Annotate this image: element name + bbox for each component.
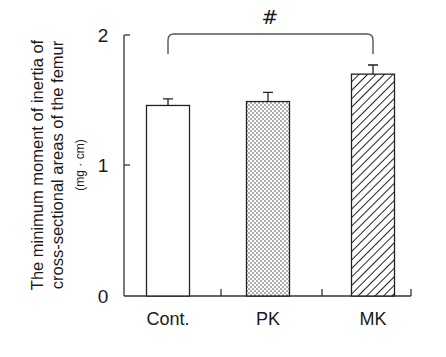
x-label-pk: PK bbox=[256, 309, 280, 329]
bar-mk bbox=[352, 74, 395, 296]
y-tick-label-2: 2 bbox=[98, 25, 109, 46]
y-tick-labels: 2 1 0 bbox=[98, 25, 109, 307]
error-bar-mk bbox=[368, 65, 378, 74]
x-label-mk: MK bbox=[360, 309, 387, 329]
error-bar-cont bbox=[163, 99, 173, 106]
x-tick-labels: Cont. PK MK bbox=[146, 309, 386, 329]
significance-bracket: # bbox=[168, 5, 373, 54]
x-label-cont: Cont. bbox=[146, 309, 189, 329]
bar-cont bbox=[147, 105, 190, 296]
y-axis-unit: (mg · cm) bbox=[73, 139, 87, 190]
y-axis-label-line-1: The minimum moment of inertia of bbox=[28, 39, 46, 290]
bar-pk bbox=[247, 102, 290, 296]
significance-marker: # bbox=[262, 5, 279, 29]
bars bbox=[147, 65, 395, 296]
y-axis bbox=[124, 35, 130, 296]
y-axis-label-line-2: cross-sectional areas of the femur bbox=[48, 40, 66, 289]
y-tick-label-0: 0 bbox=[98, 286, 109, 307]
y-axis-label: The minimum moment of inertia of cross-s… bbox=[28, 39, 87, 290]
bar-chart: The minimum moment of inertia of cross-s… bbox=[0, 0, 446, 357]
y-tick-label-1: 1 bbox=[98, 155, 109, 176]
error-bar-pk bbox=[263, 92, 273, 101]
